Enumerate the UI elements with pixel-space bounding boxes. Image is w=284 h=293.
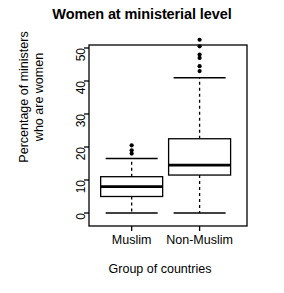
boxplot-muslim — [101, 143, 163, 213]
outlier-point-3 — [198, 53, 202, 57]
plot-border — [89, 45, 247, 226]
outlier-point-1 — [130, 148, 134, 152]
outlier-point-5 — [198, 38, 202, 42]
x-axis-title: Group of countries — [60, 262, 260, 276]
box-iqr — [169, 139, 231, 175]
outlier-point-2 — [130, 143, 134, 147]
outlier-point-4 — [198, 44, 202, 48]
box-layer — [101, 38, 231, 213]
x-tick-label-non-muslim: Non-Muslim — [150, 233, 250, 247]
outlier-point-0 — [198, 69, 202, 73]
boxplot-figure: Women at ministerial level Percentage of… — [0, 0, 284, 293]
outlier-point-1 — [198, 64, 202, 68]
axis-layer — [84, 45, 247, 231]
boxplot-non-muslim — [169, 38, 231, 213]
plot-area — [0, 0, 284, 293]
